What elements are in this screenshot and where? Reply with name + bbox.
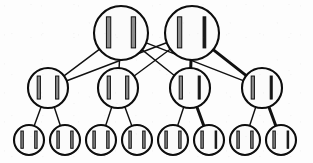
node-l5[interactable] bbox=[158, 125, 188, 155]
node-bar-left-r1 bbox=[106, 17, 110, 48]
node-bar-right-r1 bbox=[131, 17, 135, 48]
node-circle-r1 bbox=[94, 6, 148, 60]
tree-network-diagram bbox=[0, 0, 313, 163]
node-l7[interactable] bbox=[230, 125, 260, 155]
node-r2[interactable] bbox=[165, 6, 219, 60]
node-circle-l3 bbox=[86, 125, 116, 155]
node-circle-l4 bbox=[122, 125, 152, 155]
node-circle-l5 bbox=[158, 125, 188, 155]
node-circle-l6 bbox=[194, 125, 224, 155]
node-circle-l8 bbox=[266, 125, 296, 155]
node-bar-left-l7 bbox=[237, 131, 239, 148]
node-m2[interactable] bbox=[98, 68, 138, 108]
node-bar-left-l8 bbox=[273, 131, 275, 148]
node-l3[interactable] bbox=[86, 125, 116, 155]
node-bar-right-r2 bbox=[203, 17, 206, 48]
node-bar-right-l7 bbox=[251, 131, 253, 148]
node-l4[interactable] bbox=[122, 125, 152, 155]
node-m4[interactable] bbox=[242, 68, 282, 108]
node-bar-left-l2 bbox=[57, 131, 59, 148]
node-layer bbox=[14, 6, 296, 155]
node-bar-right-l5 bbox=[179, 131, 181, 148]
node-bar-left-l1 bbox=[21, 131, 23, 148]
node-bar-right-m4 bbox=[270, 76, 272, 99]
node-circle-l2 bbox=[50, 125, 80, 155]
node-bar-left-l3 bbox=[93, 131, 95, 148]
node-circle-m3 bbox=[170, 68, 210, 108]
node-bar-right-m2 bbox=[126, 76, 129, 99]
node-l2[interactable] bbox=[50, 125, 80, 155]
node-bar-left-m1 bbox=[37, 76, 40, 99]
node-circle-m2 bbox=[98, 68, 138, 108]
node-circle-m4 bbox=[242, 68, 282, 108]
edge-layer bbox=[34, 39, 276, 127]
node-bar-right-l4 bbox=[143, 131, 145, 148]
node-bar-left-l4 bbox=[129, 131, 131, 148]
node-bar-left-l6 bbox=[201, 131, 203, 148]
node-circle-l1 bbox=[14, 125, 44, 155]
node-circle-l7 bbox=[230, 125, 260, 155]
node-l8[interactable] bbox=[266, 125, 296, 155]
node-bar-right-l6 bbox=[215, 131, 216, 148]
node-m1[interactable] bbox=[28, 68, 68, 108]
node-l6[interactable] bbox=[194, 125, 224, 155]
node-circle-m1 bbox=[28, 68, 68, 108]
node-l1[interactable] bbox=[14, 125, 44, 155]
node-bar-right-m1 bbox=[56, 76, 59, 99]
node-m3[interactable] bbox=[170, 68, 210, 108]
node-circle-r2 bbox=[165, 6, 219, 60]
node-bar-right-l3 bbox=[107, 131, 109, 148]
node-bar-right-l1 bbox=[35, 131, 37, 148]
node-bar-left-r2 bbox=[177, 17, 181, 48]
node-bar-right-l2 bbox=[71, 131, 73, 148]
node-bar-left-m3 bbox=[179, 76, 182, 99]
node-bar-left-m2 bbox=[107, 76, 110, 99]
node-bar-right-m3 bbox=[198, 76, 200, 99]
node-bar-left-m4 bbox=[251, 76, 254, 99]
node-r1[interactable] bbox=[94, 6, 148, 60]
node-bar-left-l5 bbox=[165, 131, 167, 148]
diagram-canvas bbox=[0, 0, 313, 163]
node-bar-right-l8 bbox=[287, 131, 288, 148]
